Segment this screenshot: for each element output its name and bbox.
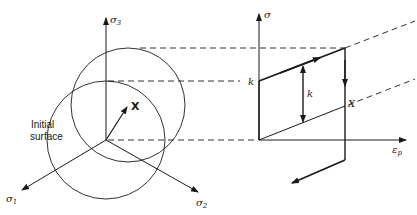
reverse-loading-path: [292, 160, 345, 183]
left-panel: X σ3 σ1 σ2 Initial surface: [6, 14, 208, 210]
right-panel: σ εp k k X: [248, 9, 406, 183]
k-span-label: k: [307, 88, 313, 99]
sigma-axis-label: σ: [264, 9, 272, 20]
initial-surface-label-line1: Initial: [31, 119, 54, 130]
sigma2-label: σ2: [196, 197, 208, 210]
sigma3-label: σ3: [110, 14, 122, 27]
initial-surface-label-line2: surface: [30, 131, 63, 142]
sigma1-label: σ1: [6, 193, 17, 206]
plastic-strain-label: εp: [392, 144, 402, 157]
sigma1-axis: [22, 140, 106, 190]
k-intercept-label: k: [248, 76, 254, 87]
translated-yield-surface: [71, 48, 185, 162]
back-stress-label-left: X: [131, 100, 140, 113]
back-stress-vector: [106, 107, 127, 140]
back-stress-label-right: X: [347, 98, 356, 109]
back-stress-line: [259, 106, 345, 140]
sigma2-axis: [106, 140, 198, 192]
kinematic-hardening-diagram: X σ3 σ1 σ2 Initial surface σ εp: [0, 0, 417, 215]
